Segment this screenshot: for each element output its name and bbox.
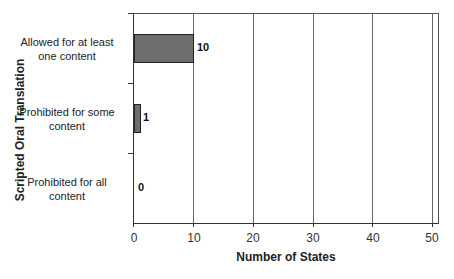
x-tick-label: 0	[131, 231, 138, 245]
category-label-line: Prohibited for some	[6, 105, 128, 119]
x-tick-mark	[432, 223, 433, 227]
gridline	[372, 14, 373, 223]
data-label-prohibited-some: 1	[143, 111, 149, 123]
category-label-line: one content	[6, 49, 128, 63]
x-tick-label: 30	[306, 231, 319, 245]
x-tick-label: 40	[366, 231, 379, 245]
category-label-prohibited-some: Prohibited for some content	[6, 105, 128, 133]
x-axis-title: Number of States	[133, 250, 439, 264]
gridline	[432, 14, 433, 223]
category-label-line: content	[6, 119, 128, 133]
bar-prohibited-some	[134, 104, 141, 133]
data-label-prohibited-all: 0	[138, 181, 144, 193]
x-tick-mark	[253, 223, 254, 227]
x-tick-label: 50	[425, 231, 438, 245]
x-tick-label: 10	[187, 231, 200, 245]
bar-allowed	[134, 34, 194, 63]
category-label-prohibited-all: Prohibited for all content	[6, 175, 128, 203]
gridline	[253, 14, 254, 223]
data-label-allowed: 10	[197, 41, 209, 53]
x-tick-mark	[133, 223, 134, 227]
plot-area	[133, 13, 439, 224]
x-tick-mark	[372, 223, 373, 227]
gridline	[313, 14, 314, 223]
x-tick-label: 20	[246, 231, 259, 245]
category-label-line: Allowed for at least	[6, 35, 128, 49]
x-tick-mark	[313, 223, 314, 227]
category-label-line: content	[6, 189, 128, 203]
x-tick-mark	[193, 223, 194, 227]
category-label-allowed: Allowed for at least one content	[6, 35, 128, 63]
category-label-line: Prohibited for all	[6, 175, 128, 189]
